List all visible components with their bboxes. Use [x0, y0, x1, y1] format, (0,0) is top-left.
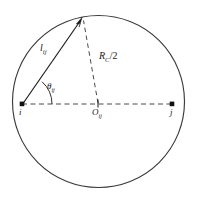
label-node-i: i	[19, 108, 22, 117]
label-radius-half: RC/2	[99, 51, 117, 64]
label-node-j: j	[170, 108, 173, 117]
radius-line-center-apex	[84, 21, 99, 104]
label-chord-length-sub: ij	[43, 48, 47, 55]
node-marker-j	[170, 102, 175, 107]
label-node-o: Oij	[92, 108, 102, 119]
label-angle-sub: ij	[51, 87, 54, 93]
label-chord-length: lij	[40, 43, 47, 56]
label-angle-theta: θij	[47, 82, 55, 93]
label-node-o-sub: ij	[99, 113, 102, 119]
geometry-figure: lij RC/2 θij i j Oij	[0, 0, 199, 208]
label-radius-suffix: /2	[110, 50, 118, 61]
node-marker-i	[20, 102, 25, 107]
figure-canvas	[0, 0, 199, 208]
